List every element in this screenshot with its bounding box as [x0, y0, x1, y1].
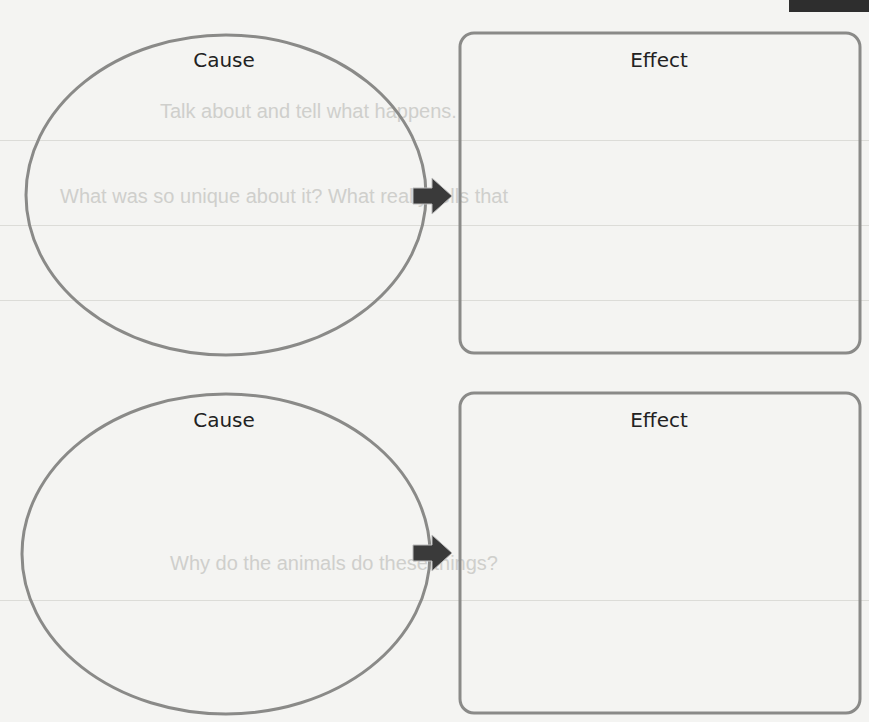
cause-label-1: Cause: [193, 48, 255, 72]
cause-label-2: Cause: [193, 408, 255, 432]
cause-effect-diagram: [0, 0, 869, 722]
effect-label-2: Effect: [630, 408, 688, 432]
effect-box-1: [460, 33, 860, 353]
effect-label-1: Effect: [630, 48, 688, 72]
arrow-icon: [413, 535, 452, 571]
cause-ellipse-2: [22, 394, 430, 714]
cause-ellipse-1: [26, 35, 426, 355]
effect-box-2: [460, 393, 860, 713]
arrow-icon: [413, 178, 452, 214]
